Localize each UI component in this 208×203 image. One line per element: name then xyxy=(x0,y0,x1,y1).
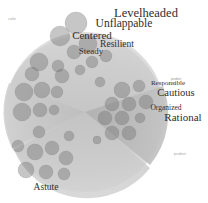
data-bubble xyxy=(55,69,69,83)
data-bubble xyxy=(133,80,145,92)
data-bubble xyxy=(95,77,105,87)
data-bubble xyxy=(15,83,33,101)
word-label: Cautious xyxy=(157,88,194,99)
data-bubble xyxy=(45,141,59,155)
word-label: Steady xyxy=(79,47,104,56)
micro-label: prudent xyxy=(171,78,181,81)
data-bubble xyxy=(33,103,47,117)
word-label: Rational xyxy=(164,112,201,123)
data-bubble xyxy=(12,140,24,152)
word-label: Astute xyxy=(34,183,59,193)
data-bubble xyxy=(59,151,73,165)
data-bubble xyxy=(39,165,53,179)
data-bubble xyxy=(122,126,136,140)
data-bubble xyxy=(27,144,43,160)
data-bubble xyxy=(93,136,101,144)
data-bubble xyxy=(115,111,129,125)
data-bubble xyxy=(105,97,119,111)
data-bubble xyxy=(86,56,98,68)
data-bubble xyxy=(135,113,145,123)
data-bubble xyxy=(34,82,50,98)
data-bubble xyxy=(58,168,70,180)
data-bubble xyxy=(114,82,130,98)
data-bubble xyxy=(25,67,39,81)
corner-label-bottom-right: prudent xyxy=(174,153,186,156)
data-bubble xyxy=(33,126,45,138)
data-bubble xyxy=(122,97,136,111)
corner-label-top-left: calm xyxy=(8,18,16,21)
data-bubble xyxy=(75,65,85,75)
data-bubble xyxy=(105,126,119,140)
data-bubble xyxy=(51,86,63,98)
word-label: Responsible xyxy=(151,80,185,87)
data-bubble xyxy=(18,162,34,178)
word-label: Resilient xyxy=(100,40,134,50)
data-bubble xyxy=(50,26,70,46)
data-bubble xyxy=(49,105,59,115)
data-bubble xyxy=(64,131,74,141)
data-bubble xyxy=(98,111,112,125)
data-bubble xyxy=(13,103,31,121)
bubble-wordcloud-chart: LevelheadedUnflappableCenteredResilientS… xyxy=(0,0,208,203)
